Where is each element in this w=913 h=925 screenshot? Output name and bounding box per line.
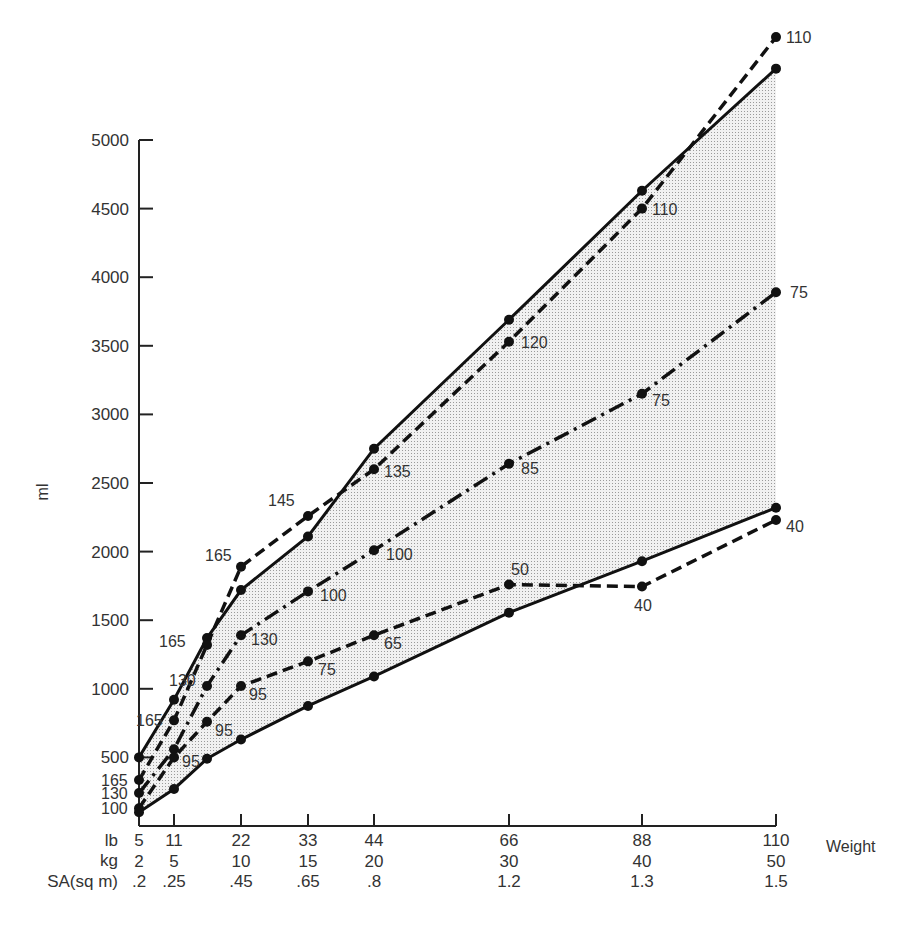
x-tick-label-lb: 110 bbox=[762, 831, 789, 850]
y-tick-label: 2000 bbox=[91, 543, 129, 562]
y-tick-label: 5000 bbox=[91, 131, 129, 150]
row-label-kg: kg bbox=[100, 851, 118, 870]
point-label: 165 bbox=[159, 633, 186, 650]
data-point bbox=[236, 735, 246, 745]
data-point bbox=[771, 64, 781, 74]
x-tick-label-lb: 88 bbox=[633, 831, 652, 850]
data-point bbox=[369, 671, 379, 681]
data-point bbox=[236, 630, 246, 640]
x-tick-label-sasqm: .2 bbox=[132, 872, 146, 891]
x-tick-label-kg: 50 bbox=[767, 852, 786, 871]
data-point bbox=[169, 695, 179, 705]
y-tick-label: 4500 bbox=[91, 200, 129, 219]
x-tick-label-kg: 20 bbox=[365, 852, 384, 871]
data-point bbox=[504, 459, 514, 469]
y-tick-label: 3000 bbox=[91, 405, 129, 424]
data-point bbox=[637, 556, 647, 566]
data-point bbox=[303, 701, 313, 711]
data-point bbox=[369, 630, 379, 640]
x-tick-label-lb: 44 bbox=[365, 831, 384, 850]
data-point bbox=[504, 580, 514, 590]
x-tick-label-sasqm: 1.3 bbox=[630, 872, 654, 891]
point-label: 100 bbox=[386, 546, 413, 563]
y-tick-label: 2500 bbox=[91, 474, 129, 493]
x-tick-label-lb: 33 bbox=[299, 831, 318, 850]
y-tick-label: 500 bbox=[101, 748, 129, 767]
x-tick-label-kg: 30 bbox=[500, 852, 519, 871]
data-point bbox=[637, 389, 647, 399]
point-label: 165 bbox=[136, 712, 163, 729]
x-tick-label-sasqm: .8 bbox=[367, 872, 381, 891]
data-point bbox=[169, 784, 179, 794]
x-tick-label-lb: 5 bbox=[134, 831, 143, 850]
data-point bbox=[202, 640, 212, 650]
x-tick-label-kg: 5 bbox=[169, 852, 178, 871]
y-tick-label: 1500 bbox=[91, 611, 129, 630]
data-point bbox=[369, 545, 379, 555]
x-tick-label-kg: 10 bbox=[232, 852, 251, 871]
chart: 5001000150020002500300035004000450050005… bbox=[0, 0, 913, 925]
data-point bbox=[504, 608, 514, 618]
point-label: 40 bbox=[786, 518, 804, 535]
data-point bbox=[303, 586, 313, 596]
point-label: 95 bbox=[182, 753, 200, 770]
point-label: 100 bbox=[101, 800, 128, 817]
x-tick-label-sasqm: 1.5 bbox=[764, 872, 788, 891]
point-label: 135 bbox=[384, 463, 411, 480]
point-label: 75 bbox=[790, 284, 808, 301]
data-point bbox=[504, 337, 514, 347]
point-label: 65 bbox=[384, 635, 402, 652]
data-point bbox=[202, 717, 212, 727]
shaded-region bbox=[139, 69, 776, 813]
point-label: 40 bbox=[634, 597, 652, 614]
point-label: 75 bbox=[652, 392, 670, 409]
point-label: 110 bbox=[652, 201, 678, 218]
x-tick-label-kg: 15 bbox=[299, 852, 318, 871]
point-label: 75 bbox=[318, 661, 336, 678]
data-point bbox=[236, 562, 246, 572]
data-point bbox=[303, 511, 313, 521]
x-tick-label-lb: 11 bbox=[165, 831, 183, 850]
x-tick-label-sasqm: .65 bbox=[296, 872, 320, 891]
point-label: 165 bbox=[205, 547, 232, 564]
data-point bbox=[771, 287, 781, 297]
data-point bbox=[134, 788, 144, 798]
data-point bbox=[202, 681, 212, 691]
x-tick-label-kg: 2 bbox=[134, 852, 143, 871]
point-label: 120 bbox=[521, 334, 548, 351]
data-point bbox=[202, 754, 212, 764]
point-label: 85 bbox=[521, 460, 539, 477]
data-point bbox=[134, 807, 144, 817]
point-label: 95 bbox=[215, 722, 233, 739]
shaded-area bbox=[139, 69, 776, 813]
data-point bbox=[637, 186, 647, 196]
x-tick-label-lb: 66 bbox=[500, 831, 519, 850]
data-point bbox=[771, 503, 781, 513]
data-point bbox=[637, 582, 647, 592]
data-point bbox=[236, 585, 246, 595]
row-label-sa: SA(sq m) bbox=[47, 872, 118, 891]
point-label: 145 bbox=[268, 492, 295, 509]
x-axis-label: Weight bbox=[826, 838, 876, 855]
x-tick-label-sasqm: 1.2 bbox=[497, 872, 521, 891]
data-point bbox=[504, 315, 514, 325]
data-point bbox=[369, 444, 379, 454]
point-label: 130 bbox=[169, 672, 196, 689]
data-point bbox=[771, 32, 781, 42]
data-point bbox=[637, 204, 647, 214]
data-point bbox=[169, 752, 179, 762]
point-label: 50 bbox=[511, 561, 529, 578]
x-tick-label-lb: 22 bbox=[232, 831, 251, 850]
point-label: 95 bbox=[249, 686, 267, 703]
data-point bbox=[236, 681, 246, 691]
x-tick-label-sasqm: .25 bbox=[162, 872, 186, 891]
y-tick-label: 4000 bbox=[91, 268, 129, 287]
y-tick-label: 3500 bbox=[91, 337, 129, 356]
x-tick-label-kg: 40 bbox=[633, 852, 652, 871]
point-label: 100 bbox=[320, 587, 347, 604]
data-point bbox=[169, 715, 179, 725]
data-point bbox=[303, 532, 313, 542]
y-tick-label: 1000 bbox=[91, 680, 129, 699]
x-tick-label-sasqm: .45 bbox=[229, 872, 253, 891]
point-label: 130 bbox=[251, 631, 278, 648]
